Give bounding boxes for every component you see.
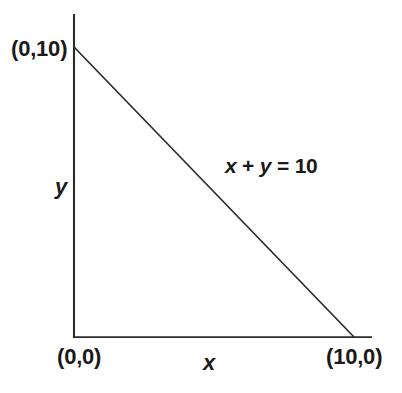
equation-variable-y: y: [260, 154, 271, 177]
vertex-label-y-intercept: (0,10): [11, 38, 67, 60]
equation-label: x + y = 10: [225, 155, 318, 176]
equation-operator: +: [236, 154, 259, 177]
equation-right-hand-side: = 10: [271, 154, 317, 177]
constraint-line: [75, 48, 355, 338]
vertex-label-x-intercept: (10,0): [326, 346, 382, 368]
x-axis-label: x: [203, 352, 215, 374]
y-axis-label: y: [55, 176, 67, 198]
equation-variable-x: x: [225, 154, 236, 177]
triangle-region-diagram: (0,10) (0,0) (10,0) x y x + y = 10: [0, 0, 402, 393]
vertex-label-origin: (0,0): [57, 346, 101, 368]
